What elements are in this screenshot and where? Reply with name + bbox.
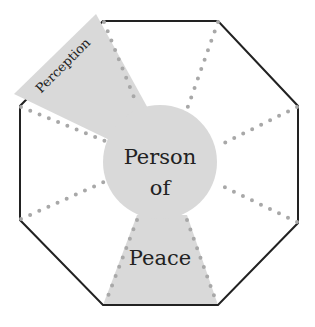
octagon-diagram: Person of Peace Perception	[0, 0, 315, 327]
center-label-line2: of	[110, 176, 210, 200]
bottom-label: Peace	[110, 246, 210, 270]
center-label-line1: Person	[110, 145, 210, 169]
